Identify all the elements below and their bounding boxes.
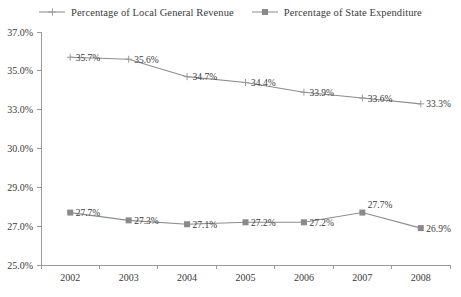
- x-axis-tick-label: 2002: [60, 272, 80, 283]
- x-axis-tick-label: 2004: [177, 272, 197, 283]
- data-point-label: 26.9%: [426, 224, 451, 234]
- data-labels-layer: 35.7%35.6%34.7%34.4%33.9%33.6%33.3%27.7%…: [76, 53, 451, 234]
- y-axis-tick-label: 33.0%: [7, 104, 33, 115]
- line-chart: Percentage of Local General Revenue Perc…: [0, 0, 461, 297]
- data-point-label: 27.3%: [134, 216, 159, 226]
- y-axis-tick-label: 29.0%: [7, 182, 33, 193]
- plot-area: 37.0%35.0%33.0%30.0%29.0%27.0%25.0% 2002…: [0, 0, 461, 297]
- data-point-marker: [301, 219, 307, 225]
- data-point-label: 27.2%: [251, 218, 276, 228]
- data-point-label: 33.9%: [309, 88, 334, 98]
- data-point-label: 27.7%: [368, 200, 393, 210]
- data-point-label: 27.2%: [309, 218, 334, 228]
- data-point-label: 35.7%: [76, 53, 101, 63]
- data-point-marker: [418, 225, 424, 231]
- y-axis-tick-label: 25.0%: [7, 260, 33, 271]
- y-axis-tick-label: 37.0%: [7, 27, 33, 38]
- x-axis-tick-label: 2003: [119, 272, 139, 283]
- data-point-marker: [67, 210, 73, 216]
- y-axis-tick-label: 27.0%: [7, 221, 33, 232]
- x-axis-tick-label: 2005: [236, 272, 256, 283]
- x-axis: 2002200320042005200620072008: [41, 265, 450, 283]
- data-point-marker: [359, 210, 365, 216]
- y-axis-tick-label: 30.0%: [7, 143, 33, 154]
- data-point-label: 27.1%: [193, 220, 218, 230]
- data-point-label: 34.4%: [251, 78, 276, 88]
- x-axis-tick-label: 2007: [352, 272, 372, 283]
- y-axis-tick-label: 35.0%: [7, 65, 33, 76]
- data-point-marker: [126, 217, 132, 223]
- data-point-label: 33.6%: [368, 94, 393, 104]
- x-axis-tick-label: 2008: [411, 272, 431, 283]
- y-axis: 37.0%35.0%33.0%30.0%29.0%27.0%25.0%: [7, 27, 41, 271]
- x-axis-tick-label: 2006: [294, 272, 314, 283]
- data-point-label: 34.7%: [193, 72, 218, 82]
- data-point-marker: [184, 221, 190, 227]
- data-point-marker: [243, 219, 249, 225]
- data-point-label: 35.6%: [134, 55, 159, 65]
- data-point-label: 27.7%: [76, 208, 101, 218]
- data-point-label: 33.3%: [426, 99, 451, 109]
